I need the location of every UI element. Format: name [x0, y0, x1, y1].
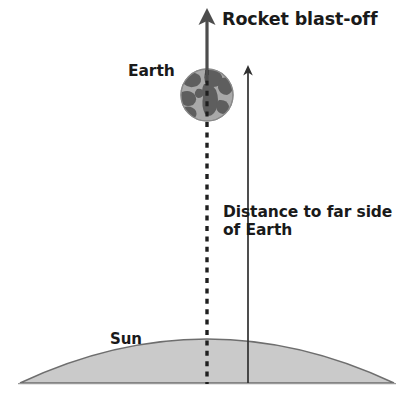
distance-to-far-side-label: Distance to far side of Earth	[223, 203, 398, 240]
sun-label: Sun	[110, 331, 142, 349]
rocket-blastoff-label: Rocket blast-off	[222, 9, 377, 30]
diagram-illustration	[0, 0, 410, 404]
earth-label: Earth	[128, 62, 175, 80]
diagram-canvas: Rocket blast-off Earth Distance to far s…	[0, 0, 410, 404]
